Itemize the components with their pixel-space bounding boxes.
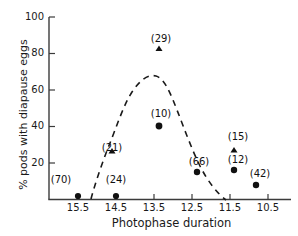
data-point-circle-12 [231,167,237,173]
data-point-triangle-21 [109,148,116,154]
data-point-triangle-29 [156,46,163,52]
fitted-dashed-curve [91,76,226,200]
data-point-circle-70 [75,193,81,199]
data-point-circle-42 [253,182,259,188]
data-point-circle-24 [113,193,119,199]
chart-figure: % pods with diapause eggs Photophase dur… [0,0,298,236]
plot-canvas [0,0,298,236]
data-point-circle-66 [194,169,200,175]
data-point-circle-10 [156,123,163,130]
data-point-triangle-15 [231,147,238,153]
